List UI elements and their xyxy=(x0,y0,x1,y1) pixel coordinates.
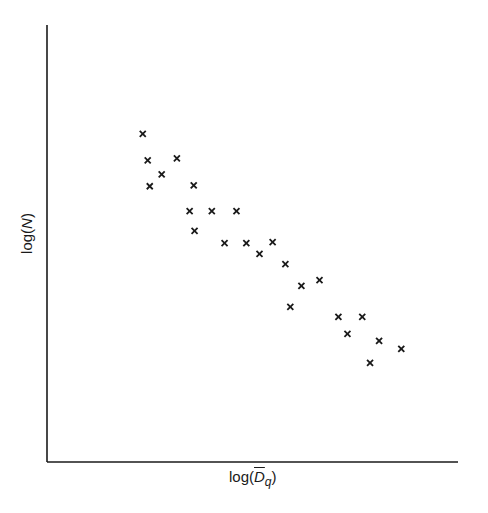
x-marker-icon xyxy=(140,131,146,137)
x-marker-icon xyxy=(256,251,262,257)
x-marker-icon xyxy=(287,304,293,310)
x-marker-icon xyxy=(270,239,276,245)
x-marker-icon xyxy=(187,208,193,214)
x-marker-icon xyxy=(359,314,365,320)
data-markers xyxy=(140,131,405,366)
y-axis-label: log(N) xyxy=(18,213,35,254)
x-axis-label: log(Dq) xyxy=(229,468,277,485)
x-marker-icon xyxy=(316,277,322,283)
x-marker-icon xyxy=(243,240,249,246)
x-marker-icon xyxy=(298,283,304,289)
x-marker-icon xyxy=(233,208,239,214)
x-marker-icon xyxy=(192,228,198,234)
x-marker-icon xyxy=(145,157,151,163)
x-marker-icon xyxy=(376,338,382,344)
x-marker-icon xyxy=(191,182,197,188)
x-marker-icon xyxy=(367,360,373,366)
x-marker-icon xyxy=(159,171,165,177)
x-marker-icon xyxy=(335,314,341,320)
x-marker-icon xyxy=(147,183,153,189)
x-marker-icon xyxy=(209,208,215,214)
x-marker-icon xyxy=(222,240,228,246)
x-marker-icon xyxy=(398,346,404,352)
x-marker-icon xyxy=(174,155,180,161)
x-marker-icon xyxy=(344,331,350,337)
x-marker-icon xyxy=(282,261,288,267)
scatter-plot xyxy=(0,0,488,513)
